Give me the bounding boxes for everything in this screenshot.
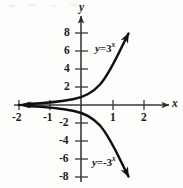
y-tick-label-8: 8 [64,27,70,39]
curve-label-lower: y=-3x [92,157,116,168]
y-tick-label--4: -4 [59,135,68,147]
x-tick-label--1: -1 [43,112,52,124]
y-tick-label--6: -6 [59,153,68,165]
curve-label-upper: y=3x [95,43,115,54]
curve-label-lower-exponent: x [112,154,116,163]
x-axis [14,100,169,110]
x-tick-label--2: -2 [12,112,21,124]
x-tick-label-1: 1 [110,112,116,124]
y-tick-label-6: 6 [64,45,70,57]
y-tick-label--8: -8 [59,171,68,183]
y-tick-label-4: 4 [64,63,70,75]
curve-label-lower-base: -3 [103,156,112,168]
x-tick-label-2: 2 [141,112,147,124]
y-tick-label-2: 2 [64,81,70,93]
exponential-function-graph-figure: -2 -1 1 2 8 6 4 2 -2 -4 -6 -8 x y y=3x y… [0,0,183,188]
y-tick-label--2: -2 [59,117,68,129]
x-axis-label: x [172,98,178,110]
y-axis-label: y [79,2,84,14]
curve-label-upper-exponent: x [111,40,115,49]
